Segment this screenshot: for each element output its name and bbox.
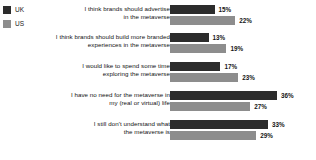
category-label: I would like to spend some timeexploring… [20,62,170,79]
bar-value-label: 27% [254,102,267,111]
bar-value-label: 22% [239,16,252,25]
bar-value-label: 13% [213,33,226,42]
category-label: I think brands should advertisein the me… [20,5,170,22]
category-label-line: in the metaverse [20,13,170,21]
bar-group: I think brands should build more branded… [0,33,316,55]
category-label: I have no need for the metaverse inmy (r… [20,91,170,108]
category-label-line: exploring the metaverse [20,70,170,78]
category-label-line: experiences in the metaverse [20,41,170,49]
chart-plot-area: I think brands should advertisein the me… [0,0,316,160]
metaverse-attitudes-bar-chart: UK US I think brands should advertisein … [0,0,316,160]
bar-uk [170,33,209,42]
bar-group: I think brands should advertisein the me… [0,5,316,27]
bar-value-label: 29% [260,131,273,140]
bar-value-label: 19% [230,44,243,53]
bar-uk [170,62,220,71]
category-label-line: I have no need for the metaverse in [20,91,170,99]
bar-us [170,102,250,111]
category-label-line: I would like to spend some time [20,62,170,70]
bar-group: I still don't understand whatthe metaver… [0,120,316,142]
bar-uk [170,91,277,100]
bar-us [170,73,238,82]
category-label-line: I think brands should advertise [20,5,170,13]
bar-group: I have no need for the metaverse inmy (r… [0,91,316,113]
bar-value-label: 33% [272,120,285,129]
bar-uk [170,120,268,129]
bar-value-label: 23% [242,73,255,82]
bar-us [170,131,256,140]
category-label: I still don't understand whatthe metaver… [20,120,170,137]
bar-value-label: 15% [219,5,232,14]
bar-uk [170,5,215,14]
category-label-line: my (real or virtual) life [20,99,170,107]
category-label: I think brands should build more branded… [20,33,170,50]
category-label-line: I think brands should build more branded [20,33,170,41]
category-label-line: I still don't understand what [20,120,170,128]
category-label-line: the metaverse is [20,128,170,136]
bar-group: I would like to spend some timeexploring… [0,62,316,84]
bar-value-label: 36% [281,91,294,100]
bar-us [170,44,226,53]
bar-us [170,16,235,25]
bar-value-label: 17% [224,62,237,71]
